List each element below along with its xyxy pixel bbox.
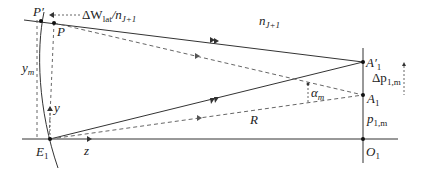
label-ym: ym bbox=[20, 60, 35, 77]
point-o1 bbox=[361, 137, 365, 141]
optics-diagram: P′ P ΔWlat/nJ+1 nJ+1 A′1 Δp1,m αm A1 p1,… bbox=[0, 0, 425, 171]
point-a1-prime bbox=[361, 60, 365, 64]
point-p-prime bbox=[39, 19, 43, 23]
label-a1: A1 bbox=[366, 91, 379, 108]
label-alpha: αm bbox=[311, 85, 325, 102]
label-delta-p: Δp1,m bbox=[372, 70, 401, 87]
z-arrow-icon bbox=[87, 136, 92, 142]
point-a1 bbox=[361, 93, 365, 97]
y-arrow-icon bbox=[47, 106, 53, 111]
label-n-medium: nJ+1 bbox=[259, 13, 280, 30]
arrow-icon bbox=[195, 53, 200, 59]
left-arrow-icon bbox=[49, 12, 54, 18]
label-e1: E1 bbox=[35, 144, 48, 161]
up-arrow-icon bbox=[402, 62, 406, 66]
ray-bottom-solid bbox=[50, 62, 363, 139]
label-p1m: p1,m bbox=[366, 111, 387, 128]
point-e1 bbox=[48, 137, 52, 141]
label-p-prime: P′ bbox=[32, 4, 44, 19]
label-z-axis: z bbox=[83, 143, 89, 158]
label-delta-w: ΔWlat/nJ+1 bbox=[82, 7, 136, 24]
point-p bbox=[52, 21, 56, 25]
label-y-axis: y bbox=[52, 100, 60, 115]
label-p: P bbox=[56, 24, 65, 39]
double-arrow-icon bbox=[210, 97, 219, 104]
label-r: R bbox=[249, 112, 258, 127]
arrow-icon bbox=[197, 115, 202, 121]
label-o1: O1 bbox=[366, 144, 380, 161]
ray-bottom-dashed bbox=[50, 95, 363, 139]
